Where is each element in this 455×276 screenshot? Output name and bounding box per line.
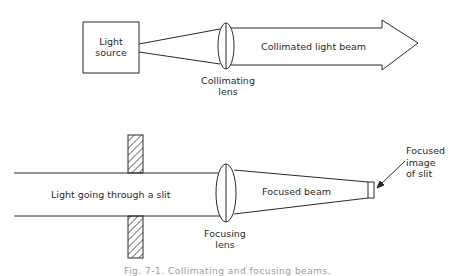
slit-barrier-upper bbox=[128, 135, 143, 173]
collimating-lens-label-line1: Collimating bbox=[196, 75, 260, 86]
collimating-lens-label-line2: lens bbox=[196, 86, 260, 97]
focusing-lens-label-line2: lens bbox=[192, 239, 258, 250]
collimated-beam-label: Collimated light beam bbox=[261, 41, 366, 52]
focused-ray-top bbox=[234, 170, 368, 182]
focused-image-label-line3: of slit bbox=[406, 168, 445, 180]
focused-beam-label: Focused beam bbox=[262, 186, 331, 197]
focusing-lens-label-line1: Focusing bbox=[192, 228, 258, 239]
diverging-ray-bottom bbox=[139, 52, 220, 64]
focused-image-label-line2: image bbox=[406, 157, 445, 169]
light-source-label: Light source bbox=[83, 36, 139, 58]
focused-slit-image bbox=[368, 182, 374, 198]
focused-image-label-line1: Focused bbox=[406, 145, 445, 157]
incoming-beam-label: Light going through a slit bbox=[51, 189, 170, 200]
diverging-ray-top bbox=[139, 29, 220, 44]
focused-ray-bottom bbox=[234, 198, 368, 214]
light-source-label-line1: Light bbox=[83, 36, 139, 47]
image-pointer-line bbox=[379, 161, 405, 186]
light-source-label-line2: source bbox=[83, 47, 139, 58]
figure-caption: Fig. 7-1. Collimating and focusing beams… bbox=[0, 266, 455, 276]
collimating-lens-label: Collimating lens bbox=[196, 75, 260, 97]
focusing-lens-label: Focusing lens bbox=[192, 228, 258, 250]
slit-barrier-lower bbox=[128, 216, 143, 258]
focused-image-label: Focused image of slit bbox=[406, 145, 445, 180]
